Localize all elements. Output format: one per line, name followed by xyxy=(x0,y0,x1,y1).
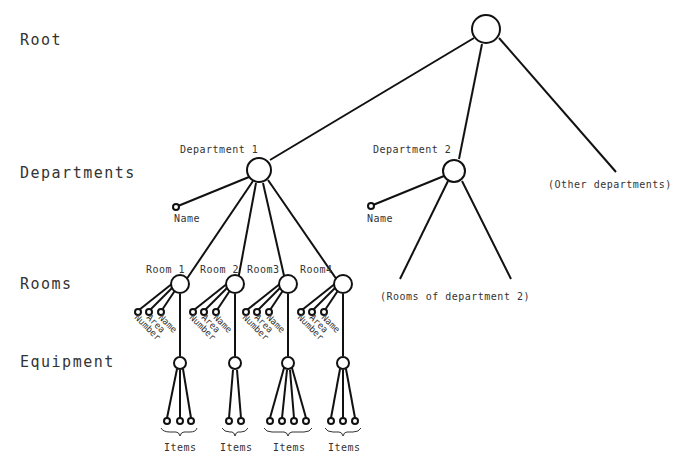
room1-label: Room 1 xyxy=(146,264,185,275)
level-label-rooms: Rooms xyxy=(20,275,73,293)
level-label-departments: Departments xyxy=(20,164,136,182)
room3-node xyxy=(279,275,297,293)
room4-items-label: Items xyxy=(328,442,361,453)
department2-node xyxy=(443,160,465,182)
department2-label: Department 2 xyxy=(373,144,451,155)
item-nodes xyxy=(164,418,358,424)
room3-label: Room3 xyxy=(247,264,280,275)
department2-edges xyxy=(373,176,511,279)
room4-node xyxy=(334,275,352,293)
room1-attr-labels: Number Area Name xyxy=(133,312,179,342)
room2-items-label: Items xyxy=(220,442,253,453)
other-departments-label: (Other departments) xyxy=(548,179,672,190)
department1-label: Department 1 xyxy=(180,144,258,155)
room1-equipment-node xyxy=(174,357,186,369)
hierarchy-tree-diagram: Root Departments Rooms Equipment xyxy=(0,0,697,468)
room4-equipment-node xyxy=(337,357,349,369)
room1-node xyxy=(171,275,189,293)
room4-subtree xyxy=(302,283,355,418)
level-label-equipment: Equipment xyxy=(20,353,115,371)
room2-label: Room 2 xyxy=(200,264,239,275)
department2-name-attr-node xyxy=(368,203,374,209)
root-node xyxy=(472,15,500,43)
room3-equipment-node xyxy=(282,357,294,369)
department1-node xyxy=(247,158,271,182)
room2-equipment-node xyxy=(229,357,241,369)
room4-label: Room4 xyxy=(300,264,333,275)
room1-subtree xyxy=(139,283,191,418)
department2-name-attr-label: Name xyxy=(367,213,393,224)
level-label-root: Root xyxy=(20,31,62,49)
room2-subtree xyxy=(194,283,241,418)
room3-items-label: Items xyxy=(273,442,306,453)
room3-attr-labels: Number Area Name xyxy=(241,312,287,342)
department1-name-attr-label: Name xyxy=(174,213,200,224)
room2-attr-labels: Number Area Name xyxy=(188,312,234,342)
room3-subtree xyxy=(247,283,306,418)
room4-attr-labels: Number Area Name xyxy=(296,312,342,342)
room1-items-label: Items xyxy=(164,442,197,453)
room2-node xyxy=(226,275,244,293)
item-braces xyxy=(161,428,361,436)
department1-name-attr-node xyxy=(173,204,179,210)
rooms-of-department2-label: (Rooms of department 2) xyxy=(380,291,530,302)
